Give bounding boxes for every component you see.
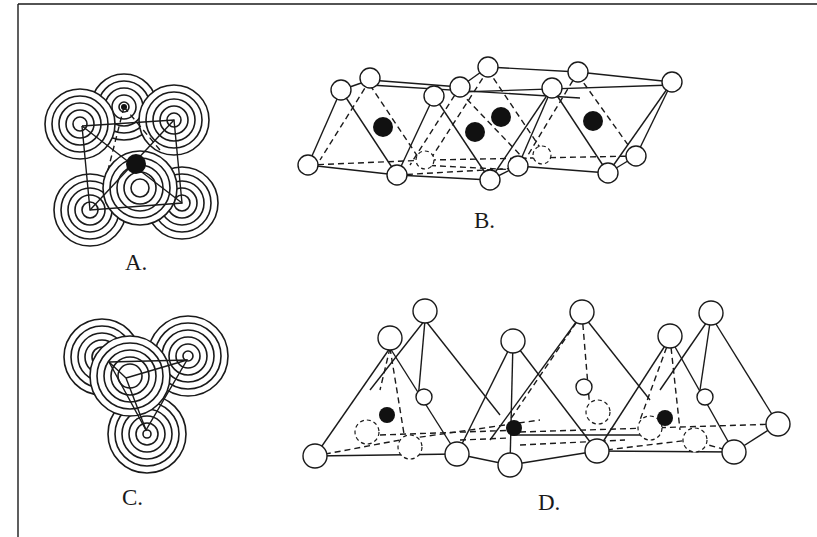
panel-b-label: B. [474,208,495,233]
sphere-icon [90,336,170,416]
panel-c-label: C. [122,485,143,510]
panel-c-tetrahedron-spheres [64,316,228,473]
cation-icon [126,154,146,174]
panel-d-label: D. [538,490,560,515]
panel-b-octahedral-chain [298,57,682,190]
cation-icon [379,407,673,436]
panel-a-octahedron-spheres [45,74,218,246]
panel-d-tetrahedral-chain [303,299,790,477]
panel-a-label: A. [125,250,147,275]
figure-canvas: A. [0,0,817,537]
